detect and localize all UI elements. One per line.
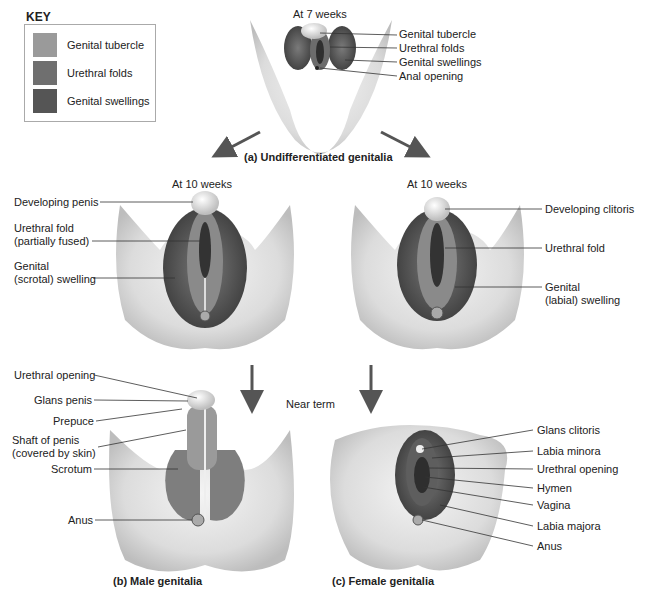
caption-c: (c) Female genitalia <box>332 575 434 587</box>
label-vagina: Vagina <box>537 499 570 512</box>
fig-female-10-weeks <box>351 197 524 349</box>
label-urethral-folds: Urethral folds <box>399 42 464 55</box>
label-shaft-of-penis: Shaft of penis <box>12 434 79 447</box>
label-developing-penis: Developing penis <box>14 196 98 209</box>
label-genital-swellings: Genital swellings <box>399 56 482 69</box>
label-genital: Genital <box>14 260 49 273</box>
key-title: KEY <box>26 10 51 24</box>
label-anus-m: Anus <box>14 514 93 527</box>
label-covered-by-skin: (covered by skin) <box>12 447 96 460</box>
swatch-genital-tubercle <box>33 33 57 57</box>
fig-male-near-term <box>109 390 294 571</box>
fig-female-near-term <box>330 425 507 570</box>
label-hymen: Hymen <box>537 482 572 495</box>
fig-7-weeks <box>250 20 392 155</box>
near-term-label: Near term <box>286 398 335 411</box>
caption-a: (a) Undifferentiated genitalia <box>244 151 393 163</box>
swatch-genital-swellings <box>33 89 57 113</box>
key-item-genital-swellings: Genital swellings <box>33 89 150 113</box>
stage-male-10-weeks: At 10 weeks <box>172 178 232 191</box>
key-item-genital-tubercle: Genital tubercle <box>33 33 144 57</box>
label-urethral-fold: Urethral fold <box>14 222 74 235</box>
label-labia-majora: Labia majora <box>537 520 601 533</box>
label-anal-opening: Anal opening <box>399 70 463 83</box>
key-legend: Genital tubercle Urethral folds Genital … <box>24 24 156 122</box>
stage-7-weeks: At 7 weeks <box>293 8 347 21</box>
label-scrotum: Scrotum <box>14 463 92 476</box>
label-prepuce: Prepuce <box>14 415 94 428</box>
label-anus-f: Anus <box>537 540 562 553</box>
label-glans-penis: Glans penis <box>14 394 92 407</box>
label-partially-fused: (partially fused) <box>14 235 89 248</box>
swatch-urethral-folds <box>33 61 57 85</box>
label-urethral-fold-f: Urethral fold <box>545 242 605 255</box>
label-glans-clitoris: Glans clitoris <box>537 424 600 437</box>
label-labia-minora: Labia minora <box>537 445 601 458</box>
label-genital-f: Genital <box>545 281 580 294</box>
caption-b: (b) Male genitalia <box>113 575 202 587</box>
fig-male-10-weeks <box>116 191 294 349</box>
key-label: Genital tubercle <box>67 39 144 51</box>
label-developing-clitoris: Developing clitoris <box>545 203 634 216</box>
label-labial-swelling: (labial) swelling <box>545 294 620 307</box>
key-item-urethral-folds: Urethral folds <box>33 61 132 85</box>
key-label: Genital swellings <box>67 95 150 107</box>
label-urethral-opening-f: Urethral opening <box>537 463 618 476</box>
stage-female-10-weeks: At 10 weeks <box>407 178 467 191</box>
key-label: Urethral folds <box>67 67 132 79</box>
label-urethral-opening-m: Urethral opening <box>14 369 92 382</box>
label-scrotal-swelling: (scrotal) swelling <box>14 273 96 286</box>
label-genital-tubercle: Genital tubercle <box>399 28 476 41</box>
